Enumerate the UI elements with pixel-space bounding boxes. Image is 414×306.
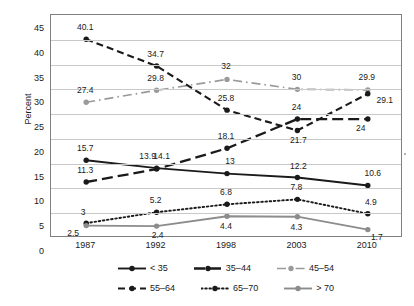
data-point	[84, 179, 89, 184]
data-point	[154, 166, 159, 171]
y-tick-10: 10	[16, 196, 44, 206]
y-tick-35: 35	[16, 73, 44, 83]
y-axis-tick-labels: 454035302520151050	[14, 14, 44, 237]
plot-area	[50, 14, 402, 237]
legend-swatch	[277, 263, 305, 274]
series-55-64	[84, 37, 371, 134]
data-point	[84, 100, 89, 105]
series-35	[84, 158, 371, 189]
legend-swatch	[194, 263, 222, 274]
data-point	[224, 146, 229, 151]
legend-swatch	[201, 283, 229, 294]
data-point	[365, 227, 370, 232]
y-tick-15: 15	[16, 172, 44, 182]
x-tick-1987: 1987	[75, 240, 95, 250]
data-point	[84, 223, 89, 228]
data-point	[295, 128, 300, 133]
data-point	[224, 77, 229, 82]
gridline	[51, 65, 401, 66]
legend-row-1: < 3535–4445–54	[50, 258, 402, 278]
legend-item-35[interactable]: < 35	[118, 263, 168, 274]
legend-item-45-54[interactable]: 45–54	[277, 263, 334, 274]
x-axis-tick-labels: 19871992199820032010	[50, 240, 402, 256]
legend-label: 55–64	[150, 283, 175, 293]
y-tick-0: 0	[16, 246, 44, 256]
data-point	[224, 171, 229, 176]
data-point	[365, 183, 370, 188]
data-point	[295, 116, 300, 121]
x-tick-1992: 1992	[146, 240, 166, 250]
series-70	[84, 214, 371, 233]
gridline	[51, 89, 401, 90]
series-45-54	[84, 77, 371, 105]
data-point	[295, 197, 300, 202]
data-point	[84, 158, 89, 163]
legend-item-65-70[interactable]: 65–70	[201, 283, 258, 294]
data-point	[154, 223, 159, 228]
series-layer	[51, 15, 403, 238]
legend-label: 65–70	[233, 283, 258, 293]
legend-item-70[interactable]: > 70	[284, 283, 334, 294]
line-chart: Percent 454035302520151050 1987199219982…	[0, 0, 414, 306]
legend: < 3535–4445–5455–6465–70> 70	[50, 258, 402, 298]
x-tick-2010: 2010	[357, 240, 377, 250]
data-point	[224, 107, 229, 112]
data-point	[295, 175, 300, 180]
data-point	[224, 202, 229, 207]
decorative-speck	[404, 153, 406, 155]
y-tick-5: 5	[16, 221, 44, 231]
gridline	[51, 139, 401, 140]
legend-label: 35–44	[226, 263, 251, 273]
data-point	[295, 214, 300, 219]
legend-item-35-44[interactable]: 35–44	[194, 263, 251, 274]
legend-swatch	[284, 283, 312, 294]
legend-swatch	[118, 283, 146, 294]
series-line	[86, 79, 368, 102]
data-point	[224, 214, 229, 219]
series-line	[86, 39, 368, 130]
gridline	[51, 213, 401, 214]
gridline	[51, 188, 401, 189]
legend-label: 45–54	[309, 263, 334, 273]
legend-item-55-64[interactable]: 55–64	[118, 283, 175, 294]
x-tick-1998: 1998	[216, 240, 236, 250]
gridline	[51, 164, 401, 165]
y-tick-20: 20	[16, 147, 44, 157]
y-tick-25: 25	[16, 122, 44, 132]
legend-label: < 35	[150, 263, 168, 273]
legend-swatch	[118, 263, 146, 274]
data-point	[365, 91, 370, 96]
legend-row-2: 55–6465–70> 70	[50, 278, 402, 298]
y-tick-45: 45	[16, 23, 44, 33]
gridline	[51, 114, 401, 115]
legend-label: > 70	[316, 283, 334, 293]
y-tick-40: 40	[16, 48, 44, 58]
gridline	[51, 40, 401, 41]
y-tick-30: 30	[16, 97, 44, 107]
data-point	[365, 116, 370, 121]
x-tick-2003: 2003	[286, 240, 306, 250]
